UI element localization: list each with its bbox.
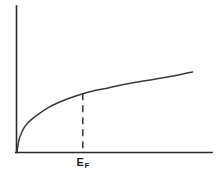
figure-container: EF xyxy=(0,0,224,180)
data-curve xyxy=(17,72,193,152)
plot-canvas xyxy=(0,0,224,180)
